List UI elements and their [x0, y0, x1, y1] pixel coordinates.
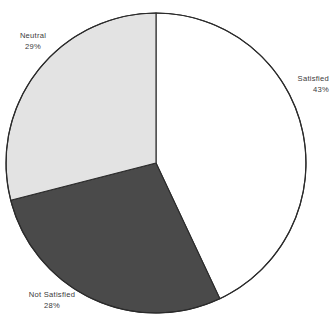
pie-chart: Satisfied 43% Neutral 29% Not Satisfied … [0, 0, 331, 326]
pie-label-satisfied-name: Satisfied [243, 74, 329, 85]
pie-label-neutral-percent: 29% [4, 42, 62, 53]
pie-label-satisfied: Satisfied 43% [243, 74, 329, 95]
pie-label-not-satisfied-percent: 28% [14, 301, 90, 312]
pie-label-not-satisfied: Not Satisfied 28% [14, 290, 90, 311]
pie-label-neutral-name: Neutral [4, 31, 62, 42]
pie-label-neutral: Neutral 29% [4, 31, 62, 52]
pie-label-not-satisfied-name: Not Satisfied [14, 290, 90, 301]
pie-label-satisfied-percent: 43% [243, 85, 329, 96]
